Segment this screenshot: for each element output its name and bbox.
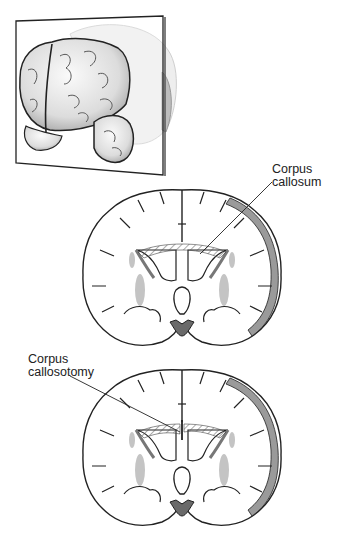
corpus-callosotomy-label: Corpus callosotomy xyxy=(28,353,94,379)
corpus-callosotomy-label-line2: callosotomy xyxy=(28,366,94,379)
coronal-section-intact xyxy=(83,190,281,346)
brain-3d-panel xyxy=(16,16,176,176)
coronal-section-callosotomy xyxy=(83,370,281,526)
figure-canvas xyxy=(0,0,343,538)
corpus-callosum-label-line2: callosum xyxy=(272,176,321,189)
corpus-callosum-label: Corpus callosum xyxy=(272,163,321,189)
